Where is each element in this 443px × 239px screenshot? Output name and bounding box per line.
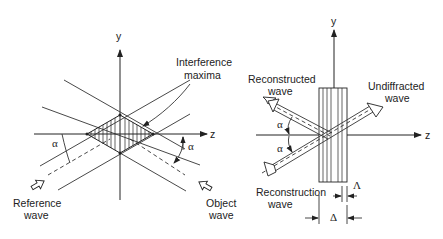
- undiffracted-label-line2: wave: [384, 92, 410, 104]
- hologram-diagram: y z: [0, 0, 443, 239]
- interference-label-line2: maxima: [184, 69, 221, 81]
- alpha-bottom-label: α: [277, 142, 283, 154]
- z-axis-label: z: [425, 129, 430, 141]
- reference-wavefront: [58, 114, 190, 190]
- reference-wave-arrow: [30, 177, 47, 193]
- undiffracted-label-line1: Undiffracted: [368, 80, 425, 92]
- alpha-left-label: α: [52, 137, 58, 149]
- reconstructed-label-line1: Reconstructed: [248, 73, 316, 85]
- z-axis-label: z: [210, 128, 215, 140]
- alpha-top-label: α: [277, 118, 283, 130]
- object-label-line1: Object: [206, 197, 236, 209]
- reference-label-line2: wave: [23, 209, 49, 221]
- right-panel-reconstruction: y z Reconstructed wave Undiffracted: [248, 15, 430, 224]
- thickness-label: Δ: [330, 211, 337, 223]
- reconstruction-label-line2: wave: [267, 198, 293, 210]
- interference-pointer-arrow: [143, 84, 190, 126]
- alpha-arc-left: [62, 134, 70, 163]
- alpha-arc-right: [174, 137, 183, 163]
- alpha-arc-bottom: [288, 136, 292, 152]
- object-wavefront: [120, 153, 186, 191]
- fringe-spacing-label: Λ: [353, 179, 361, 191]
- object-wave-arrow: [196, 178, 213, 194]
- object-wavefront: [64, 80, 185, 149]
- left-panel-recording: y z: [13, 30, 236, 221]
- y-axis-label: y: [331, 15, 337, 27]
- interference-label-line1: Interference: [176, 56, 232, 68]
- reference-label-line1: Reference: [13, 197, 62, 209]
- object-label-line2: wave: [208, 209, 234, 221]
- y-axis-label: y: [116, 30, 122, 42]
- reconstructed-label-line2: wave: [267, 85, 293, 97]
- reconstruction-label-line1: Reconstruction: [256, 186, 326, 198]
- alpha-right-label: α: [188, 140, 194, 152]
